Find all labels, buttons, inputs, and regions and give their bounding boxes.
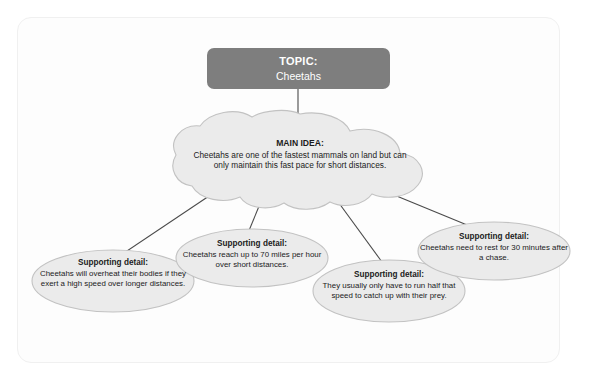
supporting-detail-2: Supporting detail: They usually only hav… [318,270,460,301]
supporting-detail-0-header: Supporting detail: [38,258,188,268]
main-idea-header: MAIN IDEA: [186,138,414,149]
supporting-detail-0: Supporting detail: Cheetahs will overhea… [38,258,188,289]
supporting-detail-0-body: Cheetahs will overheat their bodies if t… [38,269,188,289]
supporting-detail-1-body: Cheetahs reach up to 70 miles per hour o… [180,250,324,270]
supporting-detail-2-header: Supporting detail: [318,270,460,280]
main-idea-body: Cheetahs are one of the fastest mammals … [186,150,414,171]
supporting-detail-3: Supporting detail: Cheetahs need to rest… [420,232,568,263]
topic-subject: Cheetahs [276,69,321,83]
supporting-detail-2-body: They usually only have to run half that … [318,281,460,301]
supporting-detail-3-body: Cheetahs need to rest for 30 minutes aft… [420,243,568,263]
supporting-detail-1-header: Supporting detail: [180,239,324,249]
topic-label: TOPIC: [279,55,317,68]
topic-box: TOPIC: Cheetahs [207,48,390,89]
connector-main-to-detail-2 [336,199,382,262]
main-idea-text: MAIN IDEA: Cheetahs are one of the faste… [186,138,414,171]
supporting-detail-1: Supporting detail: Cheetahs reach up to … [180,239,324,270]
supporting-detail-3-header: Supporting detail: [420,232,568,242]
diagram-canvas: TOPIC: Cheetahs MAIN IDEA: Cheetahs are … [0,0,595,384]
